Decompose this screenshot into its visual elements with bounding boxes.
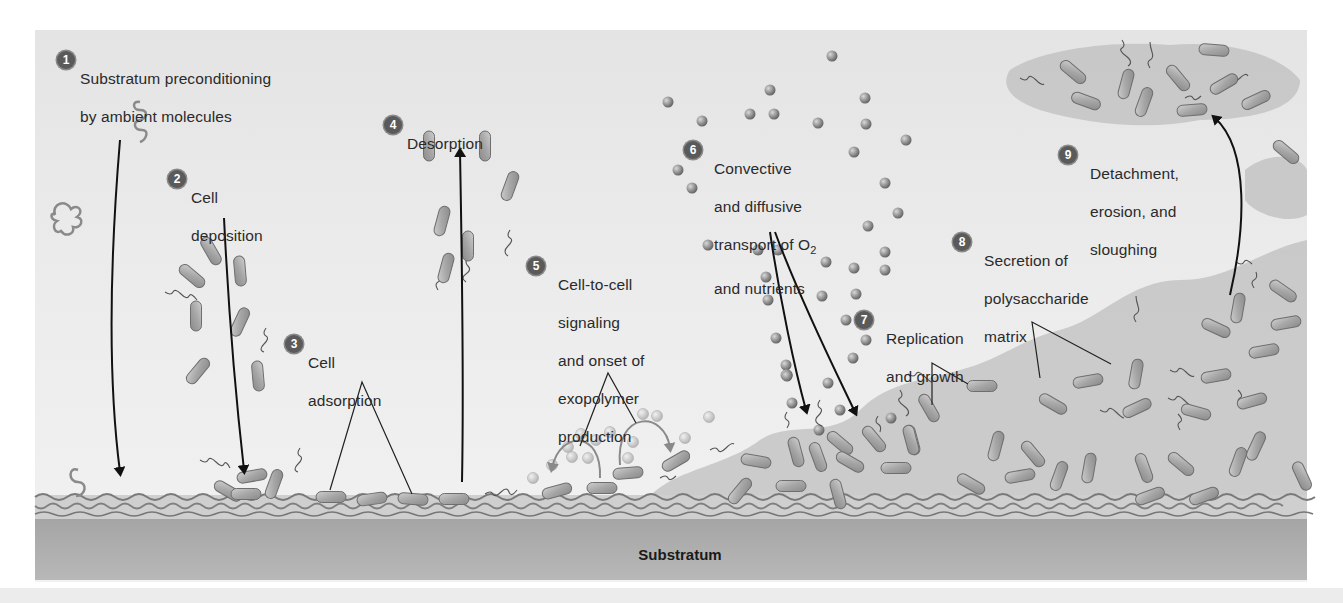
step-2-badge: 2 xyxy=(168,170,186,188)
step-2-label: Cell deposition xyxy=(191,169,263,264)
step-6-label-line-3-text: transport of O xyxy=(714,236,810,253)
step-5-badge: 5 xyxy=(527,257,545,275)
step-6-label-line-4: and nutrients xyxy=(714,279,816,298)
step-8-label-line-1: Secretion of xyxy=(984,251,1089,270)
step-1-label: Substratum preconditioning by ambient mo… xyxy=(80,50,271,145)
step-1-badge: 1 xyxy=(57,51,75,69)
step-7-label-line-1: Replication xyxy=(886,329,964,348)
step-4-badge: 4 xyxy=(384,116,402,134)
step-7-label: Replication and growth xyxy=(886,310,964,405)
step-3-label: Cell adsorption xyxy=(308,334,381,429)
step-8-label-line-2: polysaccharide xyxy=(984,289,1089,308)
step-9-label: Detachment, erosion, and sloughing xyxy=(1090,145,1179,278)
step-9-badge: 9 xyxy=(1059,146,1077,164)
step-7-badge: 7 xyxy=(855,311,873,329)
arrow-step4 xyxy=(460,152,463,482)
step-8-label-line-3: matrix xyxy=(984,327,1089,346)
step-3-badge: 3 xyxy=(285,335,303,353)
step-5-label-line-2: signaling xyxy=(558,313,645,332)
substratum xyxy=(35,494,1315,580)
step-5-label-line-1: Cell-to-cell xyxy=(558,275,645,294)
arrow-step1 xyxy=(112,140,120,472)
step-8-badge: 8 xyxy=(953,233,971,251)
step-4-label-line-1: Desorption xyxy=(407,134,483,153)
step-9-label-line-2: erosion, and xyxy=(1090,202,1179,221)
step-1-label-line-1: Substratum preconditioning xyxy=(80,69,271,88)
step-5-label-line-4: exopolymer xyxy=(558,389,645,408)
ambient-molecules xyxy=(52,102,147,496)
step-4-label: Desorption xyxy=(407,115,483,172)
step-3-label-line-2: adsorption xyxy=(308,391,381,410)
step-2-label-line-1: Cell xyxy=(191,188,263,207)
step-2-label-line-2: deposition xyxy=(191,226,263,245)
step-1-label-line-2: by ambient molecules xyxy=(80,107,271,126)
substratum-label: Substratum xyxy=(620,546,740,563)
step-5-label-line-5: production xyxy=(558,427,645,446)
step-6-label-line-1: Convective xyxy=(714,159,816,178)
step-7-label-line-2: and growth xyxy=(886,367,964,386)
step-3-label-line-1: Cell xyxy=(308,353,381,372)
step-9-label-line-1: Detachment, xyxy=(1090,164,1179,183)
step-5-label-line-3: and onset of xyxy=(558,351,645,370)
step-6-label-line-2: and diffusive xyxy=(714,197,816,216)
step-8-label: Secretion of polysaccharide matrix xyxy=(984,232,1089,365)
step-6-label: Convective and diffusive transport of O2… xyxy=(714,140,816,317)
step-9-label-line-3: sloughing xyxy=(1090,240,1179,259)
step-6-badge: 6 xyxy=(684,141,702,159)
step-5-label: Cell-to-cell signaling and onset of exop… xyxy=(558,256,645,465)
oxygen-subscript: 2 xyxy=(810,244,816,256)
step-6-label-line-3: transport of O2 xyxy=(714,235,816,260)
